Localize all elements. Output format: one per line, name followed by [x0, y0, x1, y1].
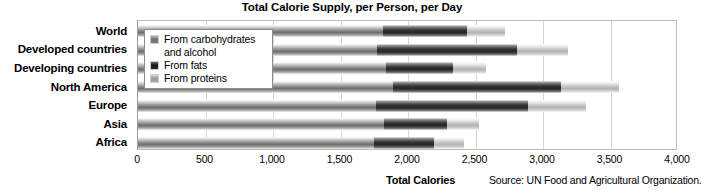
- protein-swatch-icon: [150, 74, 159, 83]
- legend-item[interactable]: From proteins: [150, 72, 272, 85]
- bar-segment-carbohydrates: [138, 100, 376, 112]
- bar-segment-fats: [383, 25, 467, 37]
- x-tick-label: 4,000: [647, 153, 704, 165]
- bar-segment-fats: [377, 44, 517, 56]
- bar-segment-carbohydrates: [138, 118, 384, 130]
- bar-segment-proteins: [447, 118, 479, 130]
- bar-segment-proteins: [453, 62, 486, 74]
- bar-segment-proteins: [517, 44, 568, 56]
- fat-swatch-icon: [150, 61, 159, 70]
- chart-figure: Total Calorie Supply, per Person, per Da…: [0, 0, 704, 191]
- bar-segment-fats: [374, 137, 433, 149]
- y-axis-label-north-america: North America: [0, 81, 127, 93]
- y-axis-label-developed-countries: Developed countries: [0, 43, 127, 55]
- x-tick-label: 2,500: [445, 153, 505, 165]
- bar-segment-fats: [386, 62, 453, 74]
- x-tick-label: 3,500: [580, 153, 640, 165]
- x-axis-title: Total Calories: [386, 174, 455, 186]
- chart-title: Total Calorie Supply, per Person, per Da…: [0, 1, 704, 13]
- bar-segment-fats: [393, 81, 560, 93]
- legend-item[interactable]: From carbohydrates and alcohol: [150, 33, 272, 59]
- source-note: Source: UN Food and Agricultural Organiz…: [489, 174, 702, 186]
- bar-segment-proteins: [467, 25, 504, 37]
- bar-row: [138, 118, 678, 130]
- chart-legend: From carbohydrates and alcoholFrom fatsF…: [144, 29, 273, 89]
- x-tick-label: 0: [107, 153, 167, 165]
- bar-segment-fats: [376, 100, 529, 112]
- bar-segment-fats: [384, 118, 447, 130]
- bar-row: [138, 137, 678, 149]
- carb-swatch-icon: [150, 35, 159, 44]
- legend-item-label: From fats: [164, 59, 207, 72]
- x-tick-label: 500: [175, 153, 235, 165]
- y-axis-label-africa: Africa: [0, 136, 127, 148]
- legend-item-label: From proteins: [164, 72, 227, 85]
- x-tick-label: 2,000: [377, 153, 437, 165]
- x-tick-label: 1,000: [242, 153, 302, 165]
- bar-segment-proteins: [561, 81, 619, 93]
- bar-segment-carbohydrates: [138, 137, 374, 149]
- legend-item-label: From carbohydrates and alcohol: [164, 33, 255, 58]
- x-tick-label: 3,000: [512, 153, 572, 165]
- legend-item[interactable]: From fats: [150, 59, 272, 72]
- bar-segment-proteins: [528, 100, 586, 112]
- x-tick-label: 1,500: [310, 153, 370, 165]
- y-axis-label-world: World: [0, 25, 127, 37]
- y-axis-label-asia: Asia: [0, 118, 127, 130]
- bar-segment-proteins: [434, 137, 464, 149]
- y-axis-label-europe: Europe: [0, 99, 127, 111]
- bar-row: [138, 100, 678, 112]
- y-axis-category-labels: WorldDeveloped countriesDeveloping count…: [0, 20, 131, 150]
- y-axis-label-developing-countries: Developing countries: [0, 62, 127, 74]
